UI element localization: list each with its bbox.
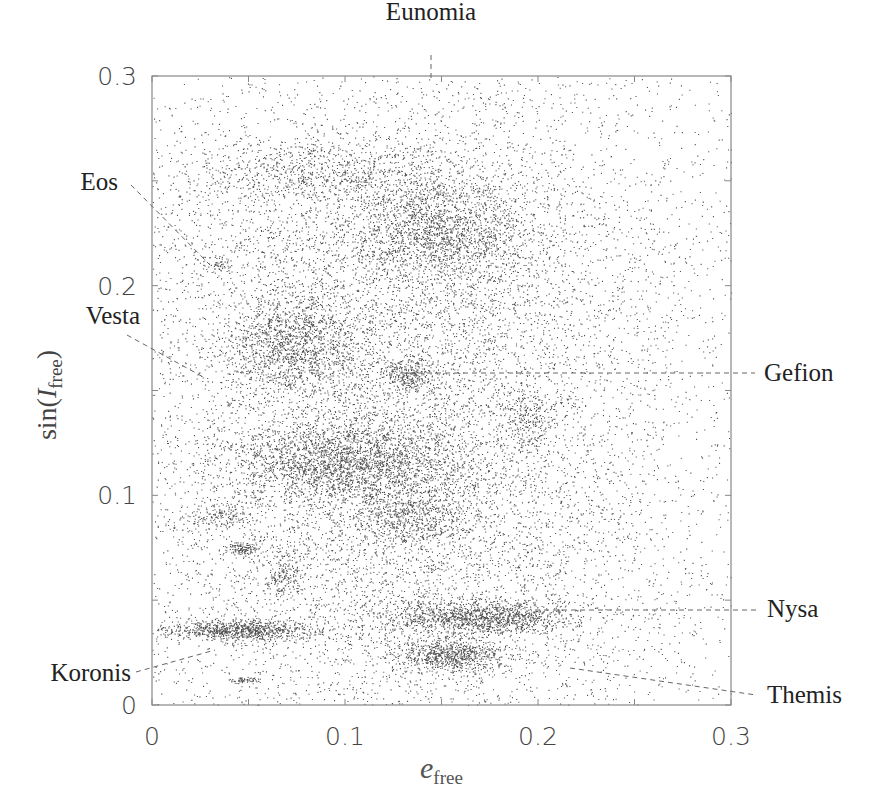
y-tick-label: 0.2	[97, 272, 137, 301]
leader-line-eos	[131, 185, 210, 265]
family-label-themis: Themis	[767, 681, 842, 708]
svg-text:sin(Ifree): sin(Ifree)	[31, 350, 66, 440]
family-label-vesta: Vesta	[86, 302, 140, 329]
leader-line-koronis	[136, 650, 215, 672]
y-tick-label: 0	[121, 691, 137, 720]
scatter-point-cloud	[152, 76, 732, 706]
x-tick-label: 0.2	[518, 722, 558, 751]
family-label-eunomia: Eunomia	[386, 0, 476, 25]
scatter-chart: 00.10.20.3 00.10.20.3 EunomiaEosVestaGef…	[0, 0, 886, 806]
annotation-labels: EunomiaEosVestaGefionNysaKoronisThemis	[50, 0, 842, 708]
scatter-points	[152, 76, 732, 706]
annotation-leader-lines	[127, 55, 758, 695]
family-label-nysa: Nysa	[767, 595, 818, 622]
x-tick-label: 0.1	[325, 722, 365, 751]
x-axis-title: efree	[420, 751, 463, 788]
y-tick-labels: 00.10.20.3	[97, 62, 137, 720]
y-axis-title: sin(Ifree)	[31, 350, 66, 440]
x-tick-label: 0	[144, 722, 160, 751]
x-tick-label: 0.3	[711, 722, 751, 751]
y-tick-label: 0.1	[97, 481, 137, 510]
leader-line-themis	[570, 668, 756, 695]
family-label-gefion: Gefion	[764, 359, 834, 386]
y-tick-label: 0.3	[97, 62, 137, 91]
family-label-eos: Eos	[81, 168, 119, 195]
leader-line-vesta	[127, 335, 205, 378]
x-tick-labels: 00.10.20.3	[144, 722, 751, 751]
family-label-koronis: Koronis	[50, 659, 131, 686]
